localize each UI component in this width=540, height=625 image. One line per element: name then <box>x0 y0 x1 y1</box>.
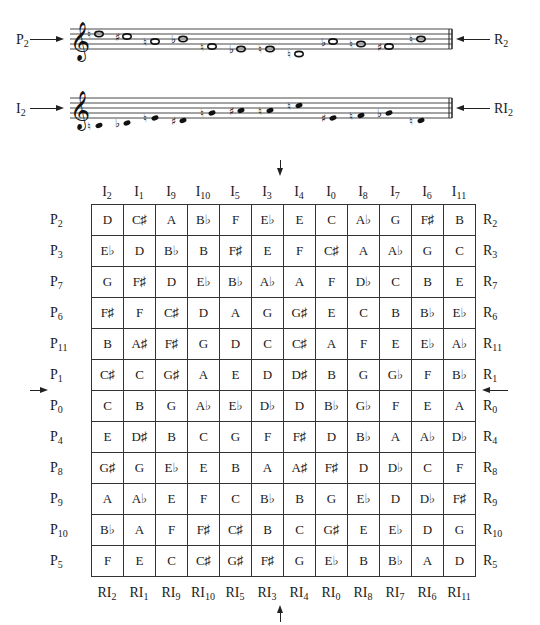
column-header-inversion: I11 <box>443 184 475 200</box>
matrix-row: FECC♯G♯F♯GE♭BB♭AD <box>92 546 476 577</box>
matrix-cell: E <box>284 205 316 236</box>
matrix-cell: A♭ <box>348 205 380 236</box>
matrix-cell: C♯ <box>124 205 156 236</box>
matrix-cell: D♭ <box>444 422 476 453</box>
svg-text:♮: ♮ <box>349 110 353 123</box>
matrix-cell: C <box>220 484 252 515</box>
svg-text:♮: ♮ <box>143 36 147 49</box>
matrix-cell: B♭ <box>92 515 124 546</box>
column-header-inversion: I1 <box>123 184 155 200</box>
matrix-cell: B <box>444 205 476 236</box>
row-label-prime: P3 <box>50 243 86 259</box>
matrix-row: AA♭EFCB♭BGE♭DD♭F♯ <box>92 484 476 515</box>
matrix-row: C♯CG♯AEDD♯BGG♭FB♭ <box>92 360 476 391</box>
matrix-cell: D♭ <box>252 391 284 422</box>
matrix-cell: B <box>348 546 380 577</box>
svg-text:♮: ♮ <box>143 112 147 125</box>
matrix-cell: C <box>124 360 156 391</box>
matrix-cell: E <box>316 298 348 329</box>
note-g-sharp: ♯ <box>321 112 337 125</box>
note-c: ♮ <box>258 105 274 118</box>
row-label-prime: P5 <box>50 553 86 569</box>
matrix-cell: D <box>220 329 252 360</box>
row-label-prime: P10 <box>50 522 86 538</box>
svg-text:♮: ♮ <box>287 100 291 113</box>
matrix-cell: F <box>92 546 124 577</box>
matrix-cell: F♯ <box>284 422 316 453</box>
matrix-cell: C <box>348 298 380 329</box>
matrix-cell: F <box>380 391 412 422</box>
matrix-cell: B♭ <box>316 391 348 422</box>
column-header-inversion: I0 <box>315 184 347 200</box>
column-footer-retrograde-inversion: RI2 <box>91 585 123 601</box>
row-label-retrograde: R11 <box>483 336 533 352</box>
svg-text:♯: ♯ <box>171 115 176 128</box>
right-side-arrow-icon <box>482 387 490 393</box>
column-header-inversion: I3 <box>251 184 283 200</box>
matrix-cell: C♯ <box>316 236 348 267</box>
matrix-cell: E♭ <box>444 298 476 329</box>
matrix-cell: F <box>444 453 476 484</box>
matrix-cell: D <box>92 205 124 236</box>
matrix-row: E♭DB♭BF♯EFC♯AA♭GC <box>92 236 476 267</box>
svg-text:♯: ♯ <box>115 31 120 44</box>
inversion-arrow-in-shaft <box>30 108 58 109</box>
matrix-cell: C♯ <box>220 515 252 546</box>
matrix-cell: F♯ <box>156 329 188 360</box>
retro-arrow-in-shaft <box>464 39 490 40</box>
note-g: ♮ <box>143 112 159 125</box>
svg-text:♮: ♮ <box>200 107 204 120</box>
matrix-cell: B <box>252 515 284 546</box>
matrix-cell: G <box>348 360 380 391</box>
matrix-cell: A♭ <box>188 391 220 422</box>
svg-text:♮: ♮ <box>87 28 91 41</box>
note-f: ♮ <box>409 115 425 128</box>
matrix-cell: B <box>156 422 188 453</box>
top-down-arrow-icon <box>277 168 283 176</box>
matrix-cell: A <box>92 484 124 515</box>
staff-inversion-right-label: RI2 <box>494 102 513 116</box>
note-c-sharp: ♯ <box>115 31 131 44</box>
svg-text:♮: ♮ <box>87 120 91 133</box>
svg-text:♭: ♭ <box>377 107 382 120</box>
column-header-inversion: I9 <box>155 184 187 200</box>
note-c-sharp: ♯ <box>229 105 245 118</box>
staff-inversion: 𝄞♮♭♮♯♮♯♮♮♯♮♭♮ <box>70 89 452 133</box>
matrix-cell: A <box>444 391 476 422</box>
matrix-cell: F <box>412 360 444 391</box>
prime-arrow-in-icon <box>56 36 64 42</box>
matrix-cell: G <box>412 236 444 267</box>
matrix-cell: C <box>316 205 348 236</box>
matrix-cell: A <box>188 360 220 391</box>
matrix-cell: F <box>284 236 316 267</box>
note-d: ♮ <box>87 120 103 133</box>
matrix-cell: E <box>188 453 220 484</box>
note-e-flat: ♭ <box>229 43 245 56</box>
column-header-inversion: I4 <box>283 184 315 200</box>
matrix-cell: A♯ <box>284 453 316 484</box>
matrix-row: ED♯BCGFF♯DB♭AA♭D♭ <box>92 422 476 453</box>
staff-prime-left-label: P2 <box>16 33 29 47</box>
row-label-prime: P6 <box>50 305 86 321</box>
matrix-cell: A <box>156 205 188 236</box>
matrix-cell: B <box>380 298 412 329</box>
matrix-cell: G <box>444 515 476 546</box>
prime-arrow-in-shaft <box>30 39 58 40</box>
matrix-cell: F <box>252 422 284 453</box>
matrix-cell: G♭ <box>348 391 380 422</box>
retro-inversion-arrow-in-shaft <box>464 108 490 109</box>
note-c: ♮ <box>287 48 303 61</box>
svg-text:♯: ♯ <box>321 112 326 125</box>
matrix-cell: F <box>316 267 348 298</box>
matrix-cell: D♭ <box>348 267 380 298</box>
matrix-cell: E <box>124 546 156 577</box>
matrix-cell: F♯ <box>252 546 284 577</box>
matrix-cell: C <box>412 453 444 484</box>
matrix-cell: A♭ <box>380 236 412 267</box>
matrix-cell: F♯ <box>316 453 348 484</box>
row-label-retrograde: R9 <box>483 491 533 507</box>
matrix-cell: C <box>188 422 220 453</box>
matrix-cell: C♯ <box>284 329 316 360</box>
svg-text:♮: ♮ <box>200 41 204 54</box>
matrix-cell: D <box>156 267 188 298</box>
